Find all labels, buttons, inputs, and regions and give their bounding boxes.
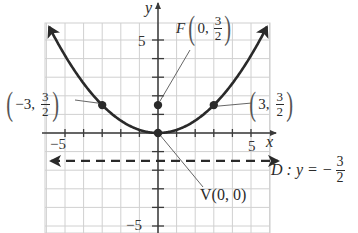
leader-lines bbox=[75, 50, 252, 187]
directrix-label: D : y = − 3 2 bbox=[271, 150, 345, 190]
close-paren: ) bbox=[52, 87, 59, 121]
vertex-leader bbox=[160, 135, 203, 187]
vertex-dot bbox=[154, 129, 162, 137]
right-point-x: 3, bbox=[258, 97, 269, 112]
focus-letter: F bbox=[176, 21, 185, 36]
x-axis-label: x bbox=[266, 134, 273, 150]
fraction-denominator: 2 bbox=[41, 105, 50, 119]
left-point-y-fraction: 3 2 bbox=[41, 90, 50, 118]
left-point-dot bbox=[98, 101, 106, 109]
close-paren: ) bbox=[225, 11, 232, 45]
fraction-numerator: 3 bbox=[276, 90, 285, 105]
fraction-numerator: 3 bbox=[41, 90, 50, 105]
left-point-leader bbox=[75, 100, 98, 103]
right-point-dot bbox=[210, 101, 218, 109]
open-paren: ( bbox=[249, 87, 256, 121]
tick-label-y-neg5: −5 bbox=[126, 218, 142, 233]
tick-label-x-5: 5 bbox=[248, 139, 256, 154]
fraction-denominator: 2 bbox=[336, 171, 345, 186]
focus-label: F ( 0, 3 2 ) bbox=[176, 3, 234, 53]
right-point-y-fraction: 3 2 bbox=[276, 90, 285, 118]
directrix-equation-prefix: D : y = − bbox=[271, 162, 333, 178]
focus-dot bbox=[154, 101, 162, 109]
left-point-x: −3, bbox=[15, 97, 35, 112]
tick-label-y-5: 5 bbox=[138, 34, 146, 49]
focus-y-fraction: 3 2 bbox=[214, 14, 223, 42]
close-paren: ) bbox=[286, 87, 293, 121]
right-point-label: ( 3, 3 2 ) bbox=[247, 80, 295, 128]
open-paren: ( bbox=[6, 87, 13, 121]
fraction-denominator: 2 bbox=[214, 29, 223, 43]
focus-leader bbox=[160, 50, 190, 101]
fraction-denominator: 2 bbox=[276, 105, 285, 119]
y-axis-label: y bbox=[145, 0, 152, 16]
open-paren: ( bbox=[188, 11, 195, 45]
focus-x: 0, bbox=[198, 21, 209, 36]
fraction-numerator: 3 bbox=[214, 14, 223, 29]
directrix-fraction: 3 2 bbox=[336, 155, 345, 185]
tick-label-x-neg5: −5 bbox=[50, 137, 66, 152]
fraction-numerator: 3 bbox=[336, 155, 345, 171]
left-point-label: ( −3, 3 2 ) bbox=[4, 80, 61, 128]
vertex-label: V(0, 0) bbox=[200, 187, 246, 203]
